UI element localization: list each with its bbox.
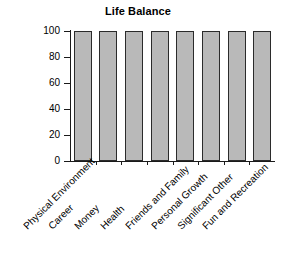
y-tick-label: 100 [28,26,60,36]
y-tick-label: 60 [28,78,60,88]
bar [151,31,169,161]
bar [202,31,220,161]
x-tick-label: Money [72,202,101,231]
y-tick-label: 80 [28,52,60,62]
bar [125,31,143,161]
chart-title: Life Balance [0,5,298,18]
y-tick-label: 20 [28,130,60,140]
x-tick-label: Health [98,203,126,231]
x-axis-labels: Physical EnvironmentCareerMoneyHealthFri… [0,161,298,264]
y-tick-label: 40 [28,104,60,114]
bar [253,31,271,161]
bar [176,31,194,161]
bar [228,31,246,161]
bar [74,31,92,161]
bar-chart: Life Balance 100806040200 Physical Envir… [0,0,298,264]
bar-series [70,31,275,161]
bar [99,31,117,161]
